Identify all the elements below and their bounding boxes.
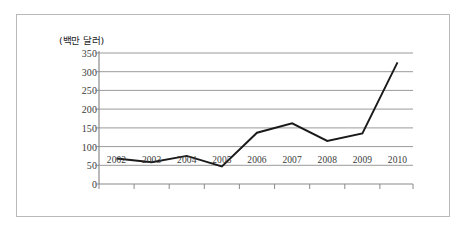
chart-figure-frame: (백만 달러) 350 300 250 200 150 100 50 0 (16, 14, 450, 217)
x-tick-2003: 2003 (132, 155, 172, 165)
chart-plot-svg (17, 15, 451, 218)
x-tick-2005: 2005 (202, 155, 242, 165)
x-tick-2008: 2008 (307, 155, 347, 165)
x-tick-2010: 2010 (378, 155, 418, 165)
data-series-line (117, 62, 398, 166)
x-tick-2009: 2009 (342, 155, 382, 165)
gridlines (99, 53, 413, 165)
x-axis-ticks (99, 184, 413, 189)
line-chart: (백만 달러) 350 300 250 200 150 100 50 0 (17, 15, 451, 218)
x-tick-2004: 2004 (167, 155, 207, 165)
x-tick-2006: 2006 (237, 155, 277, 165)
x-tick-2007: 2007 (272, 155, 312, 165)
x-tick-2002: 2002 (97, 155, 137, 165)
